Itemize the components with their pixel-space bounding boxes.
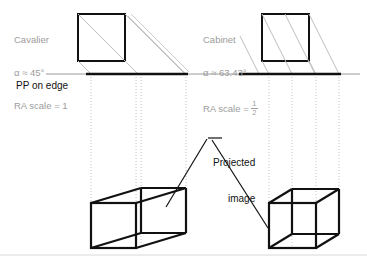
cavalier-projectors <box>78 14 185 74</box>
cabinet-ra-scale: RA scale = 12 <box>203 100 258 117</box>
cavalier-outer-projectors <box>128 14 189 74</box>
cabinet-ra-scale-prefix: RA scale = <box>203 103 251 114</box>
diagram-canvas: Cavalier α ≈ 45° RA scale = 1 Cabinet α … <box>0 0 367 262</box>
cabinet-ra-scale-fraction: 12 <box>251 100 257 117</box>
cavalier-drop-lines <box>91 74 186 246</box>
cabinet-alpha: α ≈ 63.43° <box>203 67 258 78</box>
cabinet-square <box>262 14 309 61</box>
cabinet-title: Cabinet <box>203 34 258 45</box>
cavalier-title: Cavalier <box>14 34 68 45</box>
cabinet-label-group: Cabinet α ≈ 63.43° RA scale = 12 <box>203 12 258 139</box>
pp-on-edge-label: PP on edge <box>16 80 68 91</box>
cavalier-alpha: α ≈ 45° <box>14 67 68 78</box>
cabinet-drop-lines <box>269 74 339 246</box>
projected-image-line2: image <box>213 193 255 205</box>
fraction-denominator: 2 <box>251 109 257 117</box>
projected-image-line1: Projected <box>213 157 255 169</box>
cabinet-box <box>269 189 339 248</box>
cavalier-ra-scale: RA scale = 1 <box>14 100 68 111</box>
cavalier-label-group: Cavalier α ≈ 45° RA scale = 1 <box>14 12 68 133</box>
cavalier-construction <box>78 14 189 248</box>
projected-image-label: Projected image <box>213 133 255 229</box>
